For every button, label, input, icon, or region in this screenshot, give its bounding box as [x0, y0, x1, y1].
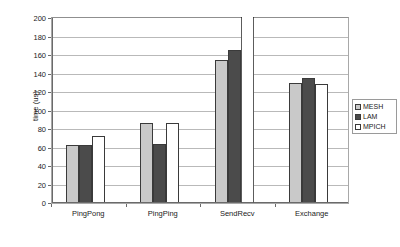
legend-label: MESH	[363, 102, 383, 111]
chart-figure: time (us) 020406080100120140160180200 Pi…	[0, 0, 400, 247]
bar-sendrecv-mpich	[241, 17, 254, 202]
x-axis-line	[52, 202, 348, 203]
bar-pingpong-lam	[79, 145, 92, 202]
legend-label: LAM	[363, 112, 377, 121]
bar-pingping-mesh	[140, 123, 153, 202]
y-tick-label: 80	[20, 125, 46, 134]
gridline	[52, 55, 348, 56]
y-tick-label: 180	[20, 32, 46, 41]
bar-pingpong-mpich	[92, 136, 105, 202]
y-tick-label: 120	[20, 88, 46, 97]
legend-item: MESH	[355, 102, 394, 111]
bar-pingpong-mesh	[66, 145, 79, 202]
bar-pingping-lam	[153, 144, 166, 202]
legend-swatch-mpich-icon	[355, 124, 361, 130]
legend-swatch-lam-icon	[355, 114, 361, 120]
y-axis-line	[52, 18, 53, 203]
bar-exchange-mesh	[289, 83, 302, 202]
x-tick-mark	[51, 204, 52, 207]
plot-area	[51, 17, 349, 204]
y-tick-label: 20	[20, 180, 46, 189]
y-tick-label: 0	[20, 199, 46, 208]
x-tick-label: Exchange	[295, 209, 328, 218]
panel-separator	[241, 18, 242, 203]
y-tick-label: 100	[20, 106, 46, 115]
legend-swatch-mesh-icon	[355, 104, 361, 110]
legend-item: MPICH	[355, 122, 394, 131]
y-tick-label: 200	[20, 14, 46, 23]
y-tick-label: 40	[20, 162, 46, 171]
bar-exchange-lam	[302, 78, 315, 202]
legend-label: MPICH	[363, 122, 386, 131]
x-tick-label: SendRecv	[220, 209, 255, 218]
panel-separator	[253, 18, 254, 203]
x-tick-mark	[275, 204, 276, 207]
chart-legend: MESH LAM MPICH	[352, 99, 397, 134]
x-tick-label: PingPong	[72, 209, 105, 218]
bar-exchange-mpich	[315, 84, 328, 202]
legend-item: LAM	[355, 112, 394, 121]
bar-sendrecv-mesh	[215, 60, 228, 202]
y-tick-label: 140	[20, 69, 46, 78]
bar-pingping-mpich	[166, 123, 179, 202]
gridline	[52, 74, 348, 75]
x-tick-mark	[126, 204, 127, 207]
x-tick-label: PingPing	[148, 209, 178, 218]
x-tick-mark	[200, 204, 201, 207]
bar-sendrecv-lam	[228, 50, 241, 202]
gridline	[52, 37, 348, 38]
y-tick-label: 60	[20, 143, 46, 152]
y-tick-label: 160	[20, 51, 46, 60]
